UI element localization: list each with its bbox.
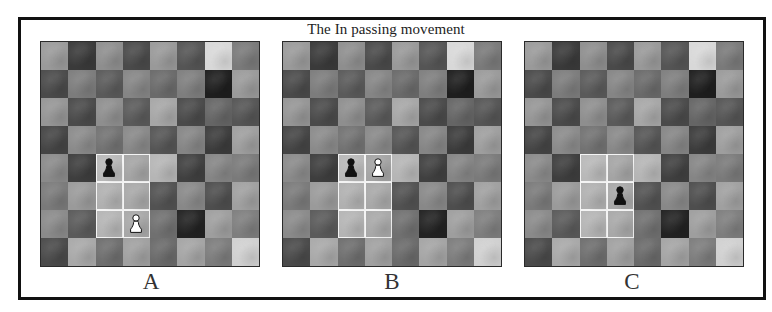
board-square xyxy=(419,42,446,70)
board-square xyxy=(68,126,95,154)
board-square xyxy=(41,182,68,210)
board-square xyxy=(232,154,259,182)
board-square xyxy=(310,42,337,70)
board-square xyxy=(392,238,419,266)
board-square xyxy=(392,70,419,98)
board-square xyxy=(607,126,634,154)
board-square xyxy=(716,98,743,126)
board-square xyxy=(552,182,579,210)
board-square xyxy=(41,238,68,266)
board-square xyxy=(716,210,743,238)
black-pawn-icon xyxy=(344,158,358,178)
board-square xyxy=(123,70,150,98)
board-square xyxy=(634,42,661,70)
board-square xyxy=(474,70,501,98)
board-square xyxy=(150,126,177,154)
board-square xyxy=(580,98,607,126)
board-square xyxy=(474,210,501,238)
board-square xyxy=(580,42,607,70)
board-square xyxy=(283,182,310,210)
board-square xyxy=(392,154,419,182)
board-square xyxy=(338,182,365,210)
board-square xyxy=(123,126,150,154)
board-square xyxy=(474,126,501,154)
board-square xyxy=(474,98,501,126)
board-square xyxy=(689,238,716,266)
board-square xyxy=(607,210,634,238)
board-square xyxy=(150,238,177,266)
board-square xyxy=(283,126,310,154)
board-square xyxy=(474,154,501,182)
board-square xyxy=(123,42,150,70)
board-square xyxy=(68,210,95,238)
board-square xyxy=(525,70,552,98)
board-square xyxy=(41,98,68,126)
board-square xyxy=(68,98,95,126)
board-square xyxy=(232,42,259,70)
board-square xyxy=(419,154,446,182)
board-square xyxy=(419,238,446,266)
board-square xyxy=(205,238,232,266)
board-square xyxy=(365,98,392,126)
board-square xyxy=(474,42,501,70)
board-square xyxy=(41,210,68,238)
board-square xyxy=(661,210,688,238)
board-square xyxy=(205,182,232,210)
board-square xyxy=(177,238,204,266)
board-square xyxy=(177,70,204,98)
board-square xyxy=(177,126,204,154)
board-square xyxy=(716,182,743,210)
board-square xyxy=(447,182,474,210)
board-square xyxy=(525,126,552,154)
board-square xyxy=(716,42,743,70)
board-square xyxy=(205,126,232,154)
black-pawn-icon xyxy=(613,186,627,206)
board-square xyxy=(392,126,419,154)
board-square xyxy=(607,182,634,210)
black-pawn-icon xyxy=(102,158,116,178)
chessboard-b xyxy=(282,41,502,267)
board-square xyxy=(661,70,688,98)
board-square xyxy=(150,182,177,210)
board-square xyxy=(716,238,743,266)
board-square xyxy=(177,182,204,210)
board-square xyxy=(607,98,634,126)
board-square xyxy=(68,182,95,210)
board-square xyxy=(310,126,337,154)
board-square xyxy=(474,182,501,210)
board-square xyxy=(96,42,123,70)
board-square xyxy=(689,182,716,210)
board-square xyxy=(447,210,474,238)
board-square xyxy=(150,42,177,70)
board-square xyxy=(205,70,232,98)
board-square xyxy=(338,154,365,182)
board-square xyxy=(552,98,579,126)
board-square xyxy=(338,98,365,126)
white-pawn-icon xyxy=(129,214,143,234)
board-square xyxy=(419,98,446,126)
board-square xyxy=(177,42,204,70)
board-square xyxy=(419,70,446,98)
board-square xyxy=(310,70,337,98)
board-square xyxy=(552,126,579,154)
board-square xyxy=(419,126,446,154)
board-square xyxy=(205,210,232,238)
board-square xyxy=(232,238,259,266)
board-square xyxy=(419,210,446,238)
board-square xyxy=(150,98,177,126)
board-square xyxy=(607,238,634,266)
board-square xyxy=(634,126,661,154)
chessboard-c xyxy=(524,41,744,267)
board-square xyxy=(689,42,716,70)
board-square xyxy=(634,210,661,238)
board-square xyxy=(283,42,310,70)
board-square xyxy=(552,42,579,70)
board-square xyxy=(689,98,716,126)
board-square xyxy=(447,154,474,182)
board-square xyxy=(205,42,232,70)
board-square xyxy=(392,98,419,126)
board-square xyxy=(447,70,474,98)
board-square xyxy=(177,210,204,238)
board-square xyxy=(310,154,337,182)
board-square xyxy=(447,126,474,154)
